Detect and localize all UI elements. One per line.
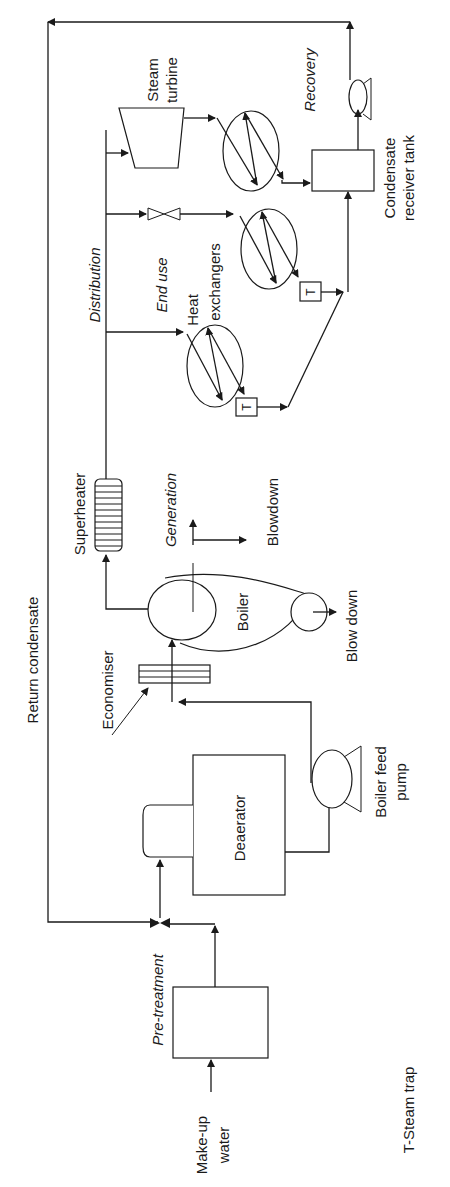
steam-trap-symbol: T <box>304 288 318 296</box>
stage-label-distribution: Distribution <box>86 247 103 322</box>
stage-label-pre-treatment: Pre-treatment <box>149 953 166 1046</box>
blowdown-label: Blowdown <box>264 478 281 546</box>
steam-turbine-label-2: turbine <box>163 57 180 103</box>
superheater <box>95 479 122 551</box>
condensate-tank-label-2: receiver tank <box>400 135 417 221</box>
deaerator-label: Deaerator <box>231 795 248 862</box>
economiser-label: Economiser <box>99 650 116 729</box>
boiler-label: Boiler <box>234 593 251 631</box>
condensate-tank-label-1: Condensate <box>381 138 398 219</box>
makeup-water-label-2: water <box>215 1127 232 1165</box>
boiler-feed-pump-label-2: pump <box>392 763 409 801</box>
stage-label-end-use: End use <box>153 257 170 312</box>
steam-turbine <box>119 108 215 168</box>
legend-steam-trap: T-Steam trap <box>400 1067 417 1154</box>
condensate-receiver-tank <box>312 120 374 191</box>
heat-exchangers-label-2: exchangers <box>206 243 223 321</box>
stage-label-generation: Generation <box>162 473 179 547</box>
return-condensate-label: Return condensate <box>24 597 41 724</box>
steam-system-diagram: Return condensate Pre-treatment Make-up … <box>0 0 450 1187</box>
steam-turbine-label-1: Steam <box>144 58 161 101</box>
economiser <box>112 640 210 735</box>
boiler-feed-pump-label-1: Boiler feed <box>372 746 389 818</box>
blow-down-label: Blow down <box>343 590 360 663</box>
boiler <box>106 520 336 651</box>
stage-label-recovery: Recovery <box>301 47 318 112</box>
heat-exchangers-label-1: Heat <box>184 293 201 326</box>
makeup-water-label-1: Make-up <box>193 1116 210 1174</box>
steam-trap-symbol: T <box>240 403 254 411</box>
superheater-label: Superheater <box>71 473 88 556</box>
heat-exchanger-3 <box>217 111 310 191</box>
condensate-pump <box>349 78 371 120</box>
heat-exchanger-2: T <box>240 192 348 301</box>
